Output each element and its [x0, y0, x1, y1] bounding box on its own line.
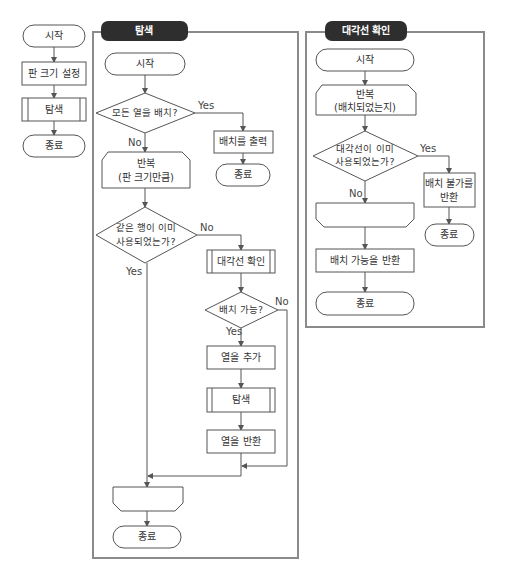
decision-same-row-line1: 같은 행이 이미 [116, 222, 176, 233]
decision-all-columns-label: 모든 열을 배치? [112, 107, 177, 118]
yes-label-3: Yes [225, 326, 242, 337]
diag-loop-end [316, 203, 414, 227]
yes-label-2: Yes [125, 266, 142, 277]
set-size-label: 판 크기 설정 [28, 68, 79, 79]
diag-start-label: 시작 [356, 54, 374, 65]
return-fail-line2: 반환 [440, 192, 458, 203]
decision-diagonal-line2: 사용되었는가? [335, 156, 394, 167]
diag-end-right-label: 종료 [440, 229, 458, 240]
loop-board-size-line2: (판 크기만큼) [118, 172, 174, 183]
print-placement-label: 배치를 출력 [219, 136, 267, 147]
no-label-2: No [200, 222, 214, 233]
decision-same-row-line2: 사용되었는가? [116, 236, 175, 247]
loop-end [113, 487, 183, 511]
return-ok-label: 배치 가능을 반환 [330, 255, 399, 266]
diag-loop-line1: 반복 [356, 89, 374, 100]
return-column-label: 열을 반환 [221, 436, 260, 447]
search-panel-title: 탐색 [135, 24, 153, 36]
flowchart-canvas: 시작 판 크기 설정 탐색 종료 탐색 시작 모든 열을 배치? Yes 배치를… [0, 0, 505, 584]
yes-label-1: Yes [197, 100, 214, 111]
diagonal-panel-title: 대각선 확인 [342, 24, 390, 36]
diag-yes-label: Yes [419, 143, 436, 154]
diag-loop-line2: (배치되었는지) [334, 102, 396, 113]
decision-diagonal-line1: 대각선이 이미 [336, 143, 393, 154]
return-fail-line1: 배치 불가를 [425, 178, 473, 189]
no-label-1: No [128, 137, 142, 148]
search-start-label: 시작 [136, 58, 154, 69]
recursive-search-label: 탐색 [232, 394, 250, 405]
search-end-right-label: 종료 [234, 169, 252, 180]
add-column-label: 열을 추가 [221, 352, 260, 363]
diagonal-check-label: 대각선 확인 [217, 256, 265, 267]
diagonal-panel: 대각선 확인 시작 반복 (배치되었는지) 대각선이 이미 사용되었는가? Ye… [306, 21, 484, 327]
no-label-3: No [275, 296, 289, 307]
main-flow: 시작 판 크기 설정 탐색 종료 [22, 25, 86, 157]
decision-placeable-label: 배치 가능? [219, 304, 263, 315]
main-end-label: 종료 [45, 140, 63, 151]
diag-end-label: 종료 [356, 298, 374, 309]
search-panel: 탐색 시작 모든 열을 배치? Yes 배치를 출력 종료 No 반복 (판 크… [93, 21, 298, 558]
main-start-label: 시작 [45, 30, 63, 41]
diag-no-label: No [349, 188, 363, 199]
loop-board-size-line1: 반복 [137, 158, 155, 169]
search-sub-label: 탐색 [45, 104, 63, 115]
search-end-label: 종료 [138, 531, 156, 542]
